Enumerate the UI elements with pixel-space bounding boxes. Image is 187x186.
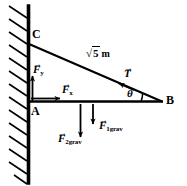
length-unit: m [100, 48, 110, 59]
vector-hat-icon: → [62, 80, 71, 89]
force-y-label: →Fy [33, 64, 44, 77]
force-y-subscript: y [40, 69, 43, 77]
force-x-label: →Fx [62, 84, 73, 97]
point-label-b: B [166, 94, 174, 106]
force-grav1-label: →F1grav [99, 120, 122, 133]
force-x-subscript: x [69, 89, 72, 97]
point-label-c: C [32, 28, 41, 40]
point-label-a: A [31, 105, 40, 117]
tension-label: →T [124, 68, 131, 79]
diagram-canvas [0, 0, 187, 186]
force-grav2-subscript: 2grav [65, 138, 81, 146]
vector-hat-icon: → [33, 60, 42, 69]
wall-hatching [9, 6, 27, 184]
physics-diagram: C A B √5m →T θ →Fy →Fx →F1grav →F2grav [0, 0, 187, 186]
vector-hat-icon: → [99, 116, 108, 125]
radicand: 5 [92, 46, 100, 59]
cable-length-label: √5m [86, 48, 110, 59]
force-grav2-label: →F2grav [58, 133, 81, 146]
vector-hat-icon: → [124, 64, 133, 73]
vector-hat-icon: → [58, 129, 67, 138]
force-grav1-subscript: 1grav [106, 125, 122, 133]
angle-label: θ [127, 88, 133, 99]
